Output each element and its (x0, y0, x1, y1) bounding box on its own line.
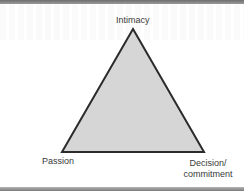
love-triangle (62, 29, 204, 152)
vertex-label-decision-commitment: Decision/ commitment (183, 158, 233, 180)
vertex-label-intimacy: Intimacy (116, 15, 150, 26)
bottom-border-bar (0, 187, 244, 191)
vertex-label-passion: Passion (42, 156, 74, 167)
